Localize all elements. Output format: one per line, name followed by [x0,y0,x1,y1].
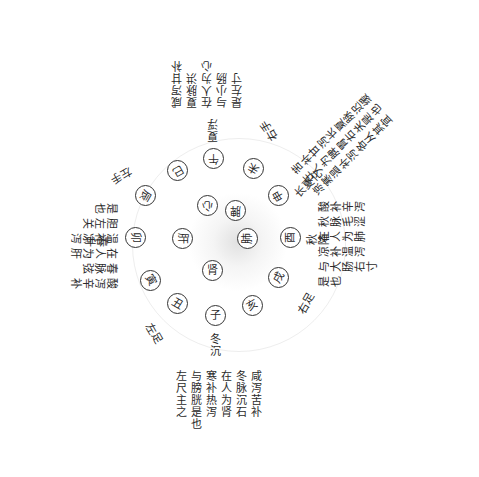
organ-kidney: 肾 [202,260,223,281]
label-right-hand: 右手 [259,118,280,143]
branch-si: 巳 [167,160,188,181]
note-long-summer: 苦补甘泻长夏脉迟缓 在人为脾胃右关是也 凉寒温补泻各从其宜 [289,61,427,199]
note-winter: 咸泻苦补 冬脉沉石 在人为肾 寒补热泻 与膀胱是也 左尺主之 [173,370,263,440]
label-winter-sink: 冬沉 [207,333,222,357]
branch-yin: 寅 [140,270,161,291]
branch-xu: 戌 [268,267,289,288]
branch-you: 酉 [280,227,301,248]
branch-wei: 未 [243,158,264,179]
branch-chen: 辰 [135,185,156,206]
branch-hai: 亥 [242,295,263,316]
note-spring: 酸泻辛补 春脉弦 在人为肝 温补凉泻 胆左关 是也 [23,200,118,290]
branch-zi: 子 [205,305,226,326]
branch-wu: 午 [203,148,224,169]
label-left-foot: 左足 [144,321,165,346]
organ-heart: 心 [197,195,218,216]
branch-mao: 卯 [125,227,146,248]
label-summer-float: 夏浮 [206,118,221,142]
branch-chou: 丑 [167,293,188,314]
organ-liver: 肝 [172,228,193,249]
note-autumn: 酸补辛泻 秋脉毛涩 在人为肺 凉补温泻 与大肠右寸 是也 [318,200,413,290]
organ-lung: 肺 [237,228,258,249]
branch-shen: 申 [268,185,289,206]
organ-spleen: 脾 [225,200,246,221]
note-summer: 咸泻甘补 夏脉洪 在人为心 与小肠 是左寸 [170,38,245,108]
label-left-hand: 左手 [109,165,134,186]
